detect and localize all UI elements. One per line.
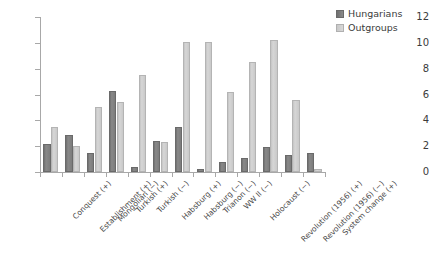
x-axis-tick xyxy=(303,173,304,177)
x-axis-tick xyxy=(40,173,41,177)
bar-hungarians xyxy=(285,155,292,172)
y-axis-tick-label: 10 xyxy=(399,38,429,48)
bar-hungarians xyxy=(131,167,138,172)
x-axis-tick xyxy=(259,173,260,177)
legend-item-outgroups[interactable]: Outgroups xyxy=(336,22,402,34)
bar-hungarians xyxy=(241,158,248,172)
x-axis-tick xyxy=(172,173,173,177)
x-axis-tick xyxy=(215,173,216,177)
bar-outgroups xyxy=(117,102,124,172)
x-axis-tick xyxy=(84,173,85,177)
bar-hungarians xyxy=(109,91,116,172)
chart-legend: Hungarians Outgroups xyxy=(336,8,402,36)
bar-hungarians xyxy=(263,147,270,172)
bar-outgroups xyxy=(314,169,321,172)
legend-swatch-icon-hungarians xyxy=(336,10,344,18)
bar-outgroups xyxy=(139,75,146,172)
x-axis-tick xyxy=(128,173,129,177)
bar-outgroups xyxy=(205,42,212,172)
y-axis-tick-label: 6 xyxy=(399,90,429,100)
bar-hungarians xyxy=(153,141,160,172)
y-axis-tick-label: 4 xyxy=(399,115,429,125)
x-axis-label: Holocaust (−) xyxy=(268,179,311,222)
y-axis-tick-label: 8 xyxy=(399,64,429,74)
bar-chart: 024681012 Conquest (+)Establishment (+)M… xyxy=(0,0,429,273)
bar-hungarians xyxy=(65,135,72,172)
x-axis-label: Conquest (+) xyxy=(71,179,113,221)
y-axis-tick-label: 12 xyxy=(399,12,429,22)
x-axis-tick xyxy=(62,173,63,177)
legend-swatch-icon-outgroups xyxy=(336,24,344,32)
y-axis-tick-label: 0 xyxy=(399,167,429,177)
legend-label-hungarians: Hungarians xyxy=(348,9,402,19)
bar-outgroups xyxy=(161,142,168,172)
bar-outgroups xyxy=(292,100,299,172)
plot-area xyxy=(40,17,325,172)
x-axis-tick xyxy=(106,173,107,177)
bar-outgroups xyxy=(270,40,277,172)
legend-item-hungarians[interactable]: Hungarians xyxy=(336,8,402,20)
bar-outgroups xyxy=(183,42,190,172)
x-axis-tick xyxy=(193,173,194,177)
bar-hungarians xyxy=(87,153,94,172)
legend-label-outgroups: Outgroups xyxy=(348,23,398,33)
x-axis-tick xyxy=(150,173,151,177)
bar-hungarians xyxy=(307,153,314,172)
x-axis-tick xyxy=(325,173,326,177)
y-axis-tick-label: 2 xyxy=(399,141,429,151)
bar-hungarians xyxy=(43,144,50,172)
bar-outgroups xyxy=(73,146,80,172)
bar-outgroups xyxy=(249,62,256,172)
x-axis-tick xyxy=(281,173,282,177)
bar-hungarians xyxy=(197,169,204,172)
x-axis-tick xyxy=(237,173,238,177)
bar-outgroups xyxy=(227,92,234,172)
bar-outgroups xyxy=(51,127,58,172)
bar-outgroups xyxy=(95,107,102,172)
bar-hungarians xyxy=(219,162,226,172)
bar-hungarians xyxy=(175,127,182,172)
